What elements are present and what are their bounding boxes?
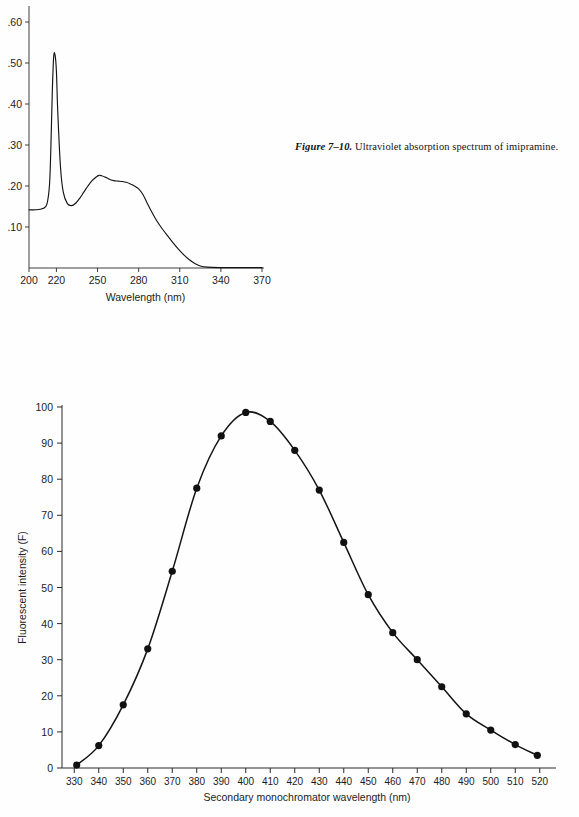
- uv-x-tick-label: 200: [20, 274, 38, 286]
- uv-x-tick-label: 310: [171, 274, 189, 286]
- fluor-x-tick-label: 340: [90, 776, 107, 787]
- fluor-y-tick-label: 90: [41, 437, 53, 449]
- fluor-data-point: [218, 432, 225, 439]
- figure-caption-text: Ultraviolet absorption spectrum of imipr…: [352, 141, 558, 152]
- uv-y-tick-label: .20: [7, 180, 22, 192]
- fluor-data-point: [291, 447, 298, 454]
- uv-y-tick-label: .10: [7, 221, 22, 233]
- fluor-y-tick-label: 30: [41, 654, 53, 666]
- fluor-x-tick-label: 510: [507, 776, 524, 787]
- fluor-y-axis-title: Fluorescent intensity (F): [16, 531, 28, 644]
- fluor-x-axis-title: Secondary monochromator wavelength (nm): [203, 791, 410, 803]
- fluor-data-point: [534, 752, 541, 759]
- fluor-data-point: [169, 568, 176, 575]
- fluor-x-tick-label: 480: [433, 776, 450, 787]
- fluor-x-tick-label: 360: [139, 776, 156, 787]
- fluor-x-tick-group: 3303403503603703803904004104204304404504…: [66, 768, 549, 787]
- fluor-x-tick-label: 460: [384, 776, 401, 787]
- fluor-y-tick-label: 100: [35, 401, 53, 413]
- uv-absorption-plot: .10.20.30.40.50.60200220250280310340370W…: [0, 0, 290, 312]
- fluor-x-tick-label: 390: [213, 776, 230, 787]
- fluor-x-tick-label: 380: [188, 776, 205, 787]
- uv-y-tick-label: .50: [7, 57, 22, 69]
- fluor-x-tick-label: 500: [482, 776, 499, 787]
- fluor-data-point-group: [73, 409, 541, 769]
- fluor-data-point: [73, 762, 80, 769]
- uv-x-tick-label: 340: [212, 274, 230, 286]
- uv-y-tick-label: .40: [7, 98, 22, 110]
- fluor-data-point: [389, 629, 396, 636]
- fluor-x-tick-label: 400: [237, 776, 254, 787]
- uv-y-tick-group: .10.20.30.40.50.60: [7, 16, 29, 233]
- fluor-x-tick-label: 450: [360, 776, 377, 787]
- fluor-y-tick-label: 50: [41, 582, 53, 594]
- fluor-data-point: [95, 742, 102, 749]
- fluor-data-point: [193, 485, 200, 492]
- uv-absorption-figure: .10.20.30.40.50.60200220250280310340370W…: [0, 0, 290, 312]
- fluor-x-tick-label: 430: [311, 776, 328, 787]
- fluor-y-tick-label: 10: [41, 726, 53, 738]
- fluor-x-tick-label: 440: [335, 776, 352, 787]
- fluor-data-point: [242, 409, 249, 416]
- fluor-data-point: [120, 701, 127, 708]
- uv-y-tick-label: .30: [7, 139, 22, 151]
- fluor-y-tick-label: 70: [41, 509, 53, 521]
- fluor-x-tick-label: 410: [262, 776, 279, 787]
- fluor-x-tick-label: 350: [115, 776, 132, 787]
- fluor-x-tick-label: 330: [66, 776, 83, 787]
- figure-caption-label: Figure 7–10.: [295, 141, 352, 152]
- fluor-data-point: [487, 727, 494, 734]
- uv-x-tick-group: 200220250280310340370: [20, 268, 271, 286]
- fluor-data-point: [512, 741, 519, 748]
- fluor-data-point: [144, 645, 151, 652]
- fluor-axes: [62, 405, 556, 768]
- uv-x-tick-label: 220: [48, 274, 66, 286]
- fluor-y-tick-label: 40: [41, 618, 53, 630]
- fluor-data-point: [316, 486, 323, 493]
- uv-y-tick-label: .60: [7, 16, 22, 28]
- fluor-data-point: [438, 683, 445, 690]
- fluorescence-figure: 0102030405060708090100330340350360370380…: [0, 382, 579, 817]
- uv-x-axis-title: Wavelength (nm): [106, 291, 186, 303]
- fluor-x-tick-label: 470: [409, 776, 426, 787]
- fluor-x-tick-label: 520: [531, 776, 548, 787]
- fluor-data-point: [267, 418, 274, 425]
- fluor-y-tick-label: 0: [47, 762, 53, 774]
- fluor-x-tick-label: 420: [286, 776, 303, 787]
- fluor-data-point: [365, 591, 372, 598]
- fluor-x-tick-label: 370: [164, 776, 181, 787]
- fluor-y-tick-group: 0102030405060708090100: [35, 401, 62, 774]
- fluor-y-tick-label: 80: [41, 473, 53, 485]
- fluor-data-point: [463, 710, 470, 717]
- uv-axes: [29, 6, 264, 268]
- figure-page: .10.20.30.40.50.60200220250280310340370W…: [0, 0, 579, 817]
- uv-x-tick-label: 280: [130, 274, 148, 286]
- fluor-y-tick-label: 60: [41, 545, 53, 557]
- fluor-data-point: [414, 656, 421, 663]
- fluor-x-tick-label: 490: [458, 776, 475, 787]
- fluor-data-point: [340, 539, 347, 546]
- uv-absorbance-curve: [29, 53, 262, 268]
- uv-x-tick-label: 250: [89, 274, 107, 286]
- fluorescence-plot: 0102030405060708090100330340350360370380…: [0, 382, 579, 817]
- uv-x-tick-label: 370: [253, 274, 271, 286]
- fluor-y-tick-label: 20: [41, 690, 53, 702]
- figure-caption: Figure 7–10. Ultraviolet absorption spec…: [295, 140, 577, 154]
